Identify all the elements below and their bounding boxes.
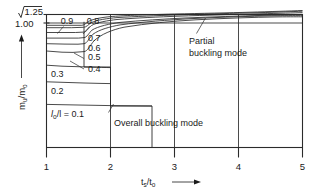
buckling-mode-chart: 1.25 1.00 mu/mo 1 2 3 4 5 ts/to: [0, 0, 316, 190]
ytick-label-second: 1.00: [15, 18, 34, 29]
xtick-label-4: 4: [236, 161, 241, 172]
xtick-label-3: 3: [172, 161, 177, 172]
leader-0-5-connector: [74, 53, 84, 59]
y-axis-title-sub-o: o: [21, 84, 28, 88]
curve-label-0-6: 0.6: [88, 43, 101, 53]
curve-label-0-7: 0.7: [88, 33, 101, 43]
curve-label-0-4: 0.4: [88, 64, 101, 74]
curve-label-0-3: 0.3: [51, 69, 64, 79]
curve-0-2: [47, 82, 111, 84]
curve-label-group-middle: 0.7 0.6 0.5 0.4: [70, 33, 101, 74]
xtick-label-5: 5: [300, 161, 305, 172]
y-axis-title-group: mu/mo: [16, 35, 28, 111]
annotation-partial-line2: buckling mode: [189, 48, 247, 58]
leader-0-4-connector: [70, 61, 84, 69]
x-axis-title-sub-o: o: [152, 181, 156, 188]
annotation-lo-over-l: lo/l = 0.1: [51, 109, 84, 120]
curve-label-0-8: 0.8: [87, 16, 100, 26]
curve-label-0-9: 0.9: [61, 16, 74, 26]
x-axis-title-group: ts/to: [141, 177, 201, 188]
leader-partial-buckling: [197, 18, 206, 34]
curve-label-0-5: 0.5: [88, 52, 101, 62]
x-axis-arrow-head: [194, 179, 201, 184]
xtick-label-1: 1: [44, 161, 49, 172]
y-axis-title: mu/mo: [16, 84, 28, 110]
annotation-overall-buckling: Overall buckling mode: [109, 104, 204, 128]
annotation-overall-text: Overall buckling mode: [114, 118, 203, 128]
ytick-label-top: 1.25: [25, 6, 44, 17]
x-axis-ticks: 1 2 3 4 5: [44, 148, 305, 173]
curve-label-0-2: 0.2: [51, 86, 64, 96]
y-axis-title-m1: m: [16, 102, 27, 110]
y-axis-title-slash-m: /m: [16, 88, 27, 99]
annotation-partial-line1: Partial: [189, 36, 215, 46]
curve-label-group-lower: 0.3 0.2 lo/l = 0.1: [51, 69, 84, 121]
chart-figure: 1.25 1.00 mu/mo 1 2 3 4 5 ts/to: [0, 0, 316, 190]
y-axis-arrow-head: [19, 35, 24, 42]
x-axis-title: ts/to: [141, 177, 156, 188]
xtick-label-2: 2: [108, 161, 113, 172]
annotation-lo-l-tail: /l = 0.1: [57, 109, 84, 119]
